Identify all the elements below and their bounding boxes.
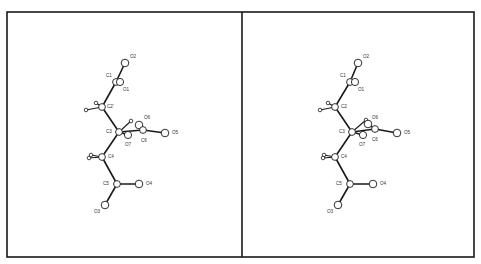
atom-label-o4: O4	[146, 181, 153, 186]
atom-o7	[359, 131, 366, 138]
atom-label-c6: C6	[141, 138, 147, 143]
atom-o5	[161, 129, 169, 137]
atom-c2	[99, 104, 106, 111]
bond-c4-c5	[335, 157, 350, 184]
atom-c3	[349, 129, 356, 136]
hydrogen-atom	[87, 156, 91, 160]
atom-o1	[116, 78, 123, 85]
atoms	[332, 59, 401, 209]
stereo-molecule-figure: O2C1O1C2'C3O7O6C6O5C4C5O4O3 O2C1O1C2C3O7…	[0, 0, 481, 264]
atom-label-o2: O2	[363, 54, 370, 59]
atom-c4	[99, 154, 106, 161]
atom-label-o7: O7	[359, 142, 366, 147]
atom-label-c4: C4	[108, 154, 114, 159]
atom-o7	[124, 131, 131, 138]
atom-label-c2: C2'	[107, 104, 114, 109]
hydrogen-atom	[129, 119, 133, 123]
atom-label-o3: O3	[327, 209, 334, 214]
atom-label-c1: C1	[340, 73, 346, 78]
atom-label-c5: C5	[336, 181, 342, 186]
atom-c5	[114, 181, 121, 188]
atom-o6	[364, 120, 372, 128]
atom-label-c2: C2	[341, 104, 347, 109]
atom-label-o2: O2	[130, 54, 137, 59]
atom-label-o5: O5	[172, 130, 179, 135]
atom-o1	[351, 78, 358, 85]
atom-o5	[393, 129, 401, 137]
atom-label-o7: O7	[125, 142, 132, 147]
hydrogen-atom	[94, 101, 98, 105]
atom-label-c4: C4	[341, 154, 347, 159]
atom-o3	[101, 201, 109, 209]
hydrogen-atom	[318, 108, 322, 112]
hydrogen-atom	[84, 108, 88, 112]
atom-label-c5: C5	[103, 181, 109, 186]
atom-label-o5: O5	[404, 130, 411, 135]
atom-c3	[116, 129, 123, 136]
atom-o2	[354, 59, 362, 67]
atom-c6	[140, 127, 147, 134]
hydrogen-atom	[321, 156, 325, 160]
atom-c2	[332, 104, 339, 111]
atom-label-o6: O6	[372, 115, 379, 120]
atom-c6	[372, 126, 379, 133]
atom-o4	[369, 180, 377, 188]
atom-o2	[121, 59, 129, 67]
hydrogen-atom	[326, 101, 330, 105]
atom-c5	[347, 181, 354, 188]
atom-label-c3: C3	[106, 129, 112, 134]
atom-label-c1: C1	[106, 73, 112, 78]
atom-c4	[332, 154, 339, 161]
atoms	[99, 59, 169, 209]
bond-c4-c5	[102, 157, 117, 184]
atom-label-c3: C3	[339, 129, 345, 134]
stereo-panel-left: O2C1O1C2'C3O7O6C6O5C4C5O4O3	[84, 54, 178, 214]
atom-label-o1: O1	[123, 87, 130, 92]
atom-o4	[135, 180, 143, 188]
stereo-panel-right: O2C1O1C2C3O7O6C6O5C4C5O4O3	[318, 54, 410, 214]
atom-label-o3: O3	[94, 209, 101, 214]
atom-label-o4: O4	[380, 181, 387, 186]
atom-label-c6: C6	[372, 137, 378, 142]
atom-label-o1: O1	[358, 87, 365, 92]
atom-o3	[334, 201, 342, 209]
atom-label-o6: O6	[144, 115, 151, 120]
